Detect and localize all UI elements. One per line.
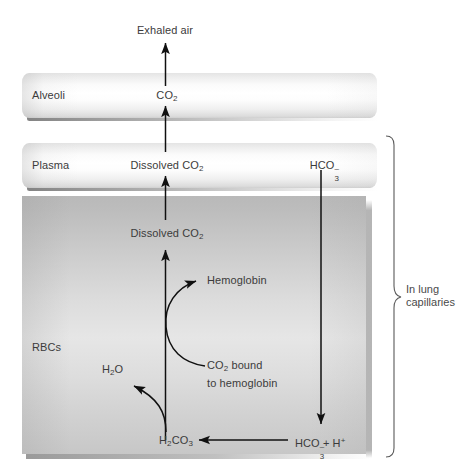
plasma-label: Plasma [32,159,69,172]
lung-capillaries-label: In lung capillaries [406,283,455,309]
water-label: H2O [102,363,123,379]
co2-alveoli-label: CO2 [156,89,177,105]
bicarbonate-proton-label: HCO–3 + H+ [295,434,345,450]
lung-capillaries-label-line1: In lung [406,283,455,296]
hemoglobin-label: Hemoglobin [207,274,267,287]
bicarbonate-plasma-count: 3 [334,172,339,185]
bicarbonate-rbc-count: 3 [320,450,325,463]
alveoli-label: Alveoli [32,89,65,102]
lung-capillaries-label-line2: capillaries [406,296,455,309]
co2-transport-diagram: Exhaled air Alveoli CO2 Plasma Dissolved… [0,0,461,476]
carbonic-acid-label: H2CO3 [159,434,193,450]
bicarbonate-plasma-label: HCO–3 [310,159,335,172]
rbc-box-shadow-right [366,200,372,458]
dissolved-co2-plasma-label: Dissolved CO2 [130,159,203,175]
alveoli-band [22,73,377,118]
rbcs-label: RBCs [32,341,61,354]
dissolved-co2-rbc-label: Dissolved CO2 [130,227,203,243]
exhaled-air-label: Exhaled air [137,24,193,37]
co2-bound-to-hemoglobin-label: CO2 bound to hemoglobin [207,358,317,390]
lung-capillaries-brace [386,136,401,457]
